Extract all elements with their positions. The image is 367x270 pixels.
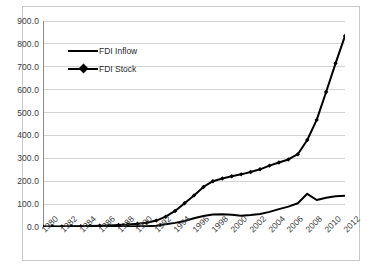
chart-legend: FDI Inflow FDI Stock [68,42,188,78]
data-point-marker [230,174,234,178]
legend-line-icon-fdi-inflow [68,45,98,57]
y-axis-tick-label: 300.0 [17,154,39,163]
y-axis-tick-label: 200.0 [17,177,39,186]
data-point-marker [248,170,252,174]
y-axis-tick-label: 600.0 [17,85,39,94]
y-axis-tick-label: 100.0 [17,200,39,209]
chart-container: 0.0100.0200.0300.0400.0500.0600.0700.080… [0,0,367,270]
y-axis-labels: 0.0100.0200.0300.0400.0500.0600.0700.080… [0,0,43,248]
legend-line-marker-icon-fdi-stock [68,63,98,75]
legend-item-fdi-stock: FDI Stock [68,60,188,78]
legend-item-fdi-inflow: FDI Inflow [68,42,188,60]
x-axis-labels: 1980198219841986198819901992199419961998… [43,228,345,270]
y-axis-tick-label: 400.0 [17,131,39,140]
y-axis-tick-label: 0.0 [27,223,39,232]
y-axis-tick-label: 800.0 [17,40,39,49]
legend-label-fdi-inflow: FDI Inflow [98,46,137,56]
y-axis-tick-label: 500.0 [17,108,39,117]
y-axis-tick-label: 900.0 [17,17,39,26]
y-axis-tick-label: 700.0 [17,63,39,72]
legend-label-fdi-stock: FDI Stock [98,64,136,74]
data-point-marker [239,172,243,176]
data-point-marker [220,176,224,180]
